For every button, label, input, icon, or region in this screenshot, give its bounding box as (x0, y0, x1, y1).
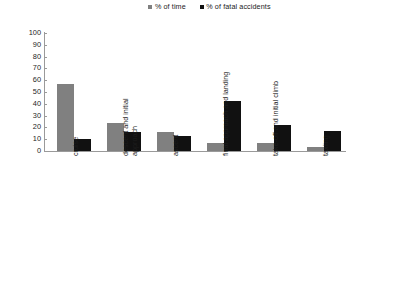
x-axis-tick-label: ascent (171, 36, 180, 156)
y-axis-tick (44, 139, 47, 140)
y-axis-tick (44, 33, 47, 34)
x-axis-tick-label: descent and initial approach (121, 36, 139, 156)
y-axis-tick (44, 57, 47, 58)
x-axis-tick-label: taxiing (321, 36, 330, 156)
x-axis-tick-label: take-off and initial climb (271, 36, 280, 156)
x-axis-labels: cruisedescent and initial approachascent… (0, 0, 419, 285)
x-axis-tick-label: cruise (71, 36, 80, 156)
y-axis-tick (44, 116, 47, 117)
y-axis-tick (44, 151, 47, 152)
y-axis-tick (44, 104, 47, 105)
y-axis-tick (44, 80, 47, 81)
bar-chart: % of time % of fatal accidents 100908070… (0, 0, 419, 285)
y-axis-tick (44, 68, 47, 69)
y-axis-tick (44, 45, 47, 46)
y-axis-tick (44, 127, 47, 128)
x-axis-tick-label: final approach and landing (221, 36, 230, 156)
y-axis-tick (44, 92, 47, 93)
